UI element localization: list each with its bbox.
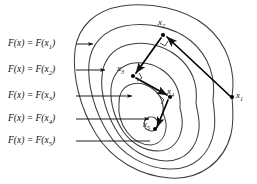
level-label-4-text: F(x) = F(x bbox=[8, 113, 49, 123]
point-label-x5-sub: 5 bbox=[147, 124, 150, 131]
point-label-x4: x4 bbox=[167, 86, 174, 98]
point-label-x3: x3 bbox=[117, 63, 124, 75]
level-label-3-text: F(x) = F(x bbox=[8, 90, 49, 100]
point-label-x3-sub: 3 bbox=[121, 68, 124, 75]
label-layer: F(x) = F(x1) F(x) = F(x2) F(x) = F(x3) F… bbox=[0, 0, 257, 184]
point-label-x2-sub: 2 bbox=[162, 22, 165, 29]
contour-optimization-figure: F(x) = F(x1) F(x) = F(x2) F(x) = F(x3) F… bbox=[0, 0, 257, 184]
point-label-x4-sub: 4 bbox=[171, 91, 174, 98]
level-label-1: F(x) = F(x1) bbox=[8, 38, 55, 50]
point-label-x5: x5 bbox=[143, 119, 150, 131]
point-label-x1-sub: 1 bbox=[240, 95, 243, 102]
point-label-x1: x1 bbox=[236, 90, 243, 102]
level-label-3: F(x) = F(x3) bbox=[8, 90, 55, 102]
level-label-5: F(x) = F(x5) bbox=[8, 135, 55, 147]
level-label-5-tail: ) bbox=[52, 135, 55, 145]
level-label-2-text: F(x) = F(x bbox=[8, 64, 49, 74]
level-label-5-text: F(x) = F(x bbox=[8, 135, 49, 145]
level-label-1-text: F(x) = F(x bbox=[8, 38, 49, 48]
level-label-4: F(x) = F(x4) bbox=[8, 113, 55, 125]
level-label-3-tail: ) bbox=[52, 90, 55, 100]
point-label-x2: x2 bbox=[158, 17, 165, 29]
level-label-2: F(x) = F(x2) bbox=[8, 64, 55, 76]
level-label-4-tail: ) bbox=[52, 113, 55, 123]
level-label-2-tail: ) bbox=[52, 64, 55, 74]
level-label-1-tail: ) bbox=[52, 38, 55, 48]
